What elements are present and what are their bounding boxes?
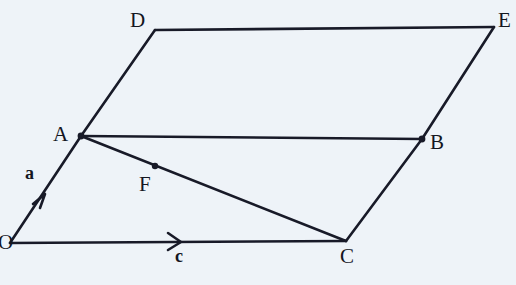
vector-label-a: a bbox=[25, 164, 34, 182]
vertex-label-C: C bbox=[340, 246, 354, 267]
vector-label-c: c bbox=[175, 247, 183, 265]
vertex-dot-B bbox=[419, 136, 426, 143]
vertex-label-A: A bbox=[53, 124, 68, 145]
edge-AC bbox=[81, 136, 346, 241]
vertex-label-D: D bbox=[130, 10, 145, 31]
edge-AD bbox=[81, 30, 155, 136]
edge-AB bbox=[81, 136, 422, 139]
point-dot-F bbox=[152, 163, 158, 169]
edge-DE bbox=[155, 27, 494, 30]
vertex-label-E: E bbox=[498, 10, 511, 31]
point-label-F: F bbox=[139, 174, 151, 195]
edge-OA bbox=[10, 136, 81, 243]
edge-BC bbox=[346, 139, 422, 241]
edge-EB bbox=[422, 27, 494, 139]
geometry-figure: O A B C D E F a c bbox=[0, 0, 516, 285]
vertex-label-O: O bbox=[0, 232, 13, 253]
vertex-label-B: B bbox=[430, 132, 444, 153]
vertex-dot-A bbox=[78, 133, 85, 140]
